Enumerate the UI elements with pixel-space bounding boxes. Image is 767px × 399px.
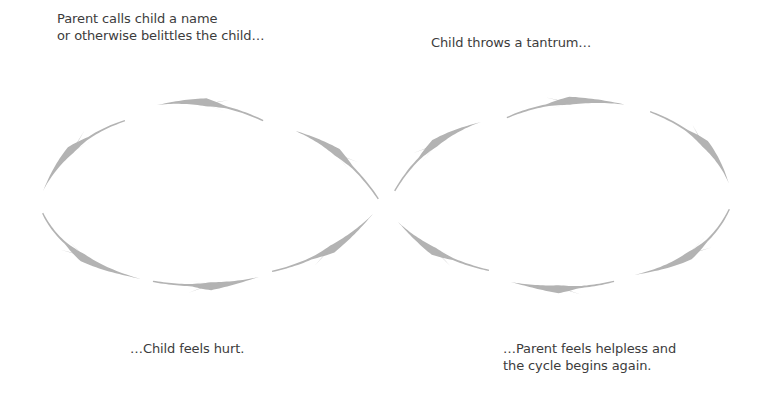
cycle-arrow-right-upper-right (650, 111, 729, 184)
cycle-arrow-left-lower-left (42, 213, 141, 279)
cycle-arrow-right-lower-left (398, 222, 489, 271)
arrow-body-icon (153, 277, 259, 290)
caption-child-tantrum: Child throws a tantrum… (431, 34, 591, 51)
caption-line: …Child feels hurt. (130, 340, 244, 357)
arrow-body-icon (511, 281, 614, 294)
caption-line: …Parent feels helpless and (503, 340, 676, 357)
right-loop-arrows (394, 97, 730, 295)
arrow-body-icon (650, 111, 729, 184)
arrow-body-icon (157, 98, 263, 121)
arrow-body-icon (634, 209, 730, 275)
arrow-body-icon (507, 97, 628, 119)
caption-parent-belittles-child: Parent calls child a name or otherwise b… (57, 10, 264, 44)
cycle-arrow-right-top (507, 97, 628, 119)
arrow-body-icon (398, 222, 489, 271)
arrow-body-icon (293, 130, 379, 199)
arrow-body-icon (394, 122, 481, 191)
arrow-body-icon (272, 214, 373, 272)
caption-parent-feels-helpless: …Parent feels helpless and the cycle beg… (503, 340, 676, 374)
cycle-arrow-right-lower-right (634, 209, 730, 275)
cycle-arrow-left-lower-right (272, 214, 373, 272)
caption-line: or otherwise belittles the child… (57, 27, 264, 44)
cycle-arrow-left-top (157, 98, 263, 121)
arrow-body-icon (43, 120, 125, 191)
cycle-arrow-left-upper-left (43, 120, 125, 191)
caption-line: Child throws a tantrum… (431, 34, 591, 51)
caption-line: Parent calls child a name (57, 10, 264, 27)
cycle-arrow-left-bottom (153, 277, 259, 293)
parent-child-cycle-diagram: Parent calls child a name or otherwise b… (0, 0, 767, 399)
caption-line: the cycle begins again. (503, 357, 676, 374)
arrow-body-icon (42, 213, 141, 279)
caption-child-feels-hurt: …Child feels hurt. (130, 340, 244, 357)
cycle-arrow-left-upper-right (293, 130, 379, 199)
cycle-arrow-right-bottom (511, 281, 614, 295)
cycle-arrow-right-upper-left (394, 122, 481, 191)
left-loop-arrows (42, 98, 379, 292)
